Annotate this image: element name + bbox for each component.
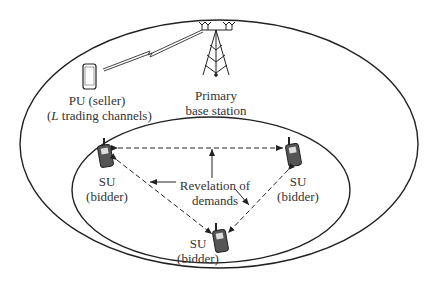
pu-smartphone-icon (83, 64, 96, 89)
base-station-label: Primary base station (176, 88, 256, 118)
base-station-tower-icon (199, 22, 235, 76)
su-right-label: SU (bidder) (275, 174, 321, 204)
su-right-phone-icon (285, 137, 302, 167)
su-left-label: SU (bidder) (84, 174, 130, 204)
diagram-canvas: PU (seller) (L trading channels) Primary… (0, 0, 434, 282)
pu-label: PU (seller) (L trading channels) (47, 93, 147, 123)
wireless-link-icon (103, 30, 203, 71)
revelation-annotation: Revelation of demands (175, 178, 255, 208)
su-bottom-label: SU (bidder) (175, 236, 221, 266)
